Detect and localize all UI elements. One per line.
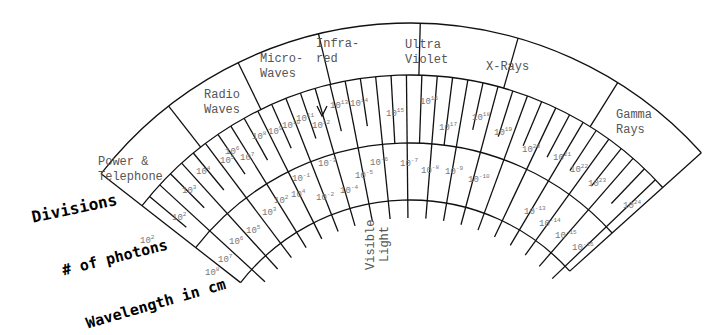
wavelength-value: 10-8 (421, 164, 439, 176)
wavelength-value: 103 (262, 206, 277, 218)
region-label: Rays (616, 123, 645, 137)
wavelength-value: 10-16 (572, 241, 594, 253)
division-tick (539, 158, 633, 266)
photon-count-value: 1015 (386, 107, 404, 119)
region-label: Waves (204, 103, 240, 117)
photon-count-value: 106 (225, 145, 240, 157)
division-tick (444, 80, 468, 221)
photon-count-value: 104 (196, 165, 211, 177)
wavelength-value: 10-2 (316, 191, 334, 203)
wavelength-value: 10-14 (539, 217, 561, 229)
wavelength-value: 106 (229, 235, 244, 247)
region-label: Infra- (316, 37, 359, 51)
photon-count-value: 1014 (350, 97, 368, 109)
region-separator (590, 83, 618, 127)
visible-light-label: Visible (364, 220, 378, 270)
arc-end-cap (101, 174, 240, 283)
division-tick (406, 75, 407, 218)
division-tick (523, 102, 542, 146)
region-label: Radio (204, 88, 240, 102)
photon-count-value: 1018 (472, 111, 490, 123)
wavelength-value: 107 (218, 253, 233, 265)
wavelength-value: 10-4 (340, 184, 358, 196)
photon-count-value: 1017 (439, 121, 457, 133)
photon-count-value: 1022 (570, 163, 588, 175)
photon-count-value: 1019 (494, 126, 512, 138)
region-label: red (316, 52, 338, 66)
division-tick (376, 77, 390, 219)
photon-count-value: 1020 (522, 143, 540, 155)
region-label: Violet (405, 53, 448, 67)
wavelength-value: 10-13 (524, 205, 546, 217)
em-spectrum-diagram: Power &TelephoneRadioWavesMicro-WavesInf… (0, 0, 723, 335)
region-label: Gamma (616, 108, 652, 122)
photon-count-value: 109 (268, 125, 283, 137)
wavelength-value: 10-15 (555, 229, 577, 241)
photon-count-value: 1023 (588, 177, 606, 189)
photon-count-value: 1012 (312, 119, 330, 131)
wavelength-value: 10-7 (400, 157, 418, 169)
region-separator (238, 63, 261, 110)
wavelength-value: 10-5 (355, 169, 373, 181)
division-tick (419, 75, 421, 143)
region-label: Waves (260, 67, 296, 81)
region-label: Power & (98, 155, 148, 169)
photon-count-value: 1016 (420, 95, 438, 107)
photon-count-value: 1021 (553, 151, 571, 163)
region-label: X-Rays (486, 60, 529, 74)
wavelength-value: 10-3 (318, 157, 336, 169)
arc-ring-0 (101, 23, 701, 174)
region-label: Telephone (98, 170, 163, 184)
arc-end-cap (570, 153, 702, 271)
photon-count-value: 103 (182, 184, 197, 196)
wavelength-value: 105 (246, 224, 261, 236)
division-tick (444, 78, 453, 145)
photon-count-value: 1013 (330, 99, 348, 111)
arc-rings (101, 23, 701, 283)
region-label: Ultra (405, 38, 441, 52)
photon-count-labels: 1021021031041051061071081091010101110121… (140, 95, 641, 246)
wavelength-value: 10-9 (445, 165, 463, 177)
region-label: Micro- (260, 52, 303, 66)
wavelength-value: 10-1 (292, 172, 310, 184)
visible-light-label: Light (378, 226, 392, 262)
photon-count-value: 108 (252, 130, 267, 142)
wavelength-value: 10-6 (370, 156, 388, 168)
region-separator (169, 106, 201, 147)
wavelength-value: 10-10 (468, 173, 490, 185)
spectrum-arc-graphic: Power &TelephoneRadioWavesMicro-WavesInf… (0, 0, 723, 335)
wavelength-value: 104 (291, 188, 306, 200)
arc-ring-3 (241, 200, 570, 283)
wavelength-value: 102 (274, 194, 289, 206)
photon-count-value: 102 (172, 211, 187, 223)
